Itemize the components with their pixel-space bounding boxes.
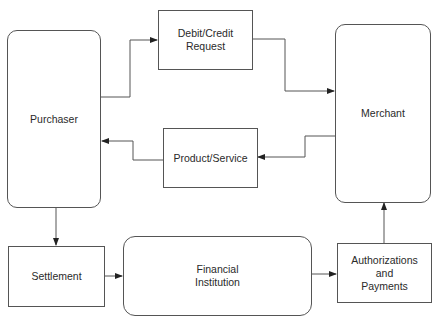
node-debit-credit-label: Debit/Credit Request xyxy=(178,27,233,53)
node-debit-credit-request: Debit/Credit Request xyxy=(158,10,253,70)
node-purchaser: Purchaser xyxy=(7,30,101,208)
edge-purchaser-to-debit-credit xyxy=(101,40,157,97)
node-settlement: Settlement xyxy=(8,246,105,307)
edge-debit-credit-to-merchant xyxy=(253,39,334,91)
node-authorizations-and-payments: Authorizations and Payments xyxy=(337,243,432,303)
node-settlement-label: Settlement xyxy=(31,270,81,283)
edge-merchant-to-product-service xyxy=(258,136,335,157)
edge-product-service-to-purchaser xyxy=(102,141,163,160)
node-purchaser-label: Purchaser xyxy=(30,113,78,126)
node-authorizations-label: Authorizations and Payments xyxy=(351,254,418,293)
node-financial-institution-label: Financial Institution xyxy=(195,263,240,289)
node-product-service: Product/Service xyxy=(163,128,258,188)
node-financial-institution: Financial Institution xyxy=(123,236,312,316)
node-merchant-label: Merchant xyxy=(361,107,405,120)
node-merchant: Merchant xyxy=(335,24,431,203)
node-product-service-label: Product/Service xyxy=(173,152,247,165)
